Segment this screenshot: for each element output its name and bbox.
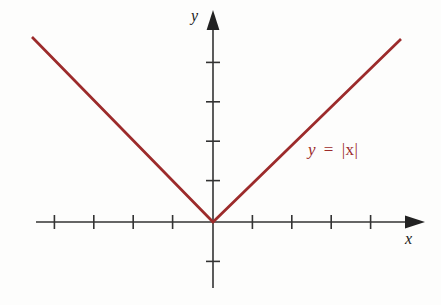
curve-equation-label: y = |x| [308,141,358,158]
figure-canvas: y x y = |x| [0,0,441,305]
equation-lhs: y [308,140,316,159]
x-axis-arrowhead [405,216,425,229]
y-axis-arrowhead [207,10,220,30]
absolute-value-graph [0,0,441,305]
equation-rhs: |x| [342,140,359,159]
equation-operator: = [321,140,337,159]
y-axis-label: y [191,8,198,24]
x-axis-label: x [405,231,412,247]
curve-y-equals-abs-x [32,37,401,222]
